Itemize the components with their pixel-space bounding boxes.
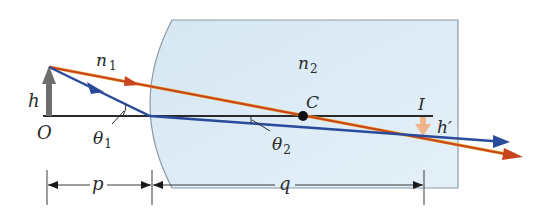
theta1-arc <box>123 104 126 116</box>
label-O: O <box>37 122 52 143</box>
refraction-diagram: n1 n2 h O θ1 θ2 C I h′ p q <box>0 0 551 221</box>
blue-ray-arrowhead-mid <box>87 82 104 94</box>
center-point-C <box>298 111 308 121</box>
medium-n2-block <box>150 20 458 188</box>
red-ray-arrowhead-end <box>502 148 523 160</box>
label-p: p <box>92 173 104 194</box>
red-ray-arrowhead-mid <box>124 76 140 86</box>
blue-ray-arrowhead-end <box>493 135 510 148</box>
label-I: I <box>417 94 425 114</box>
label-h: h <box>28 90 40 111</box>
object-arrow <box>42 66 56 116</box>
theta1-leader <box>112 111 124 124</box>
label-h-prime: h′ <box>437 117 452 137</box>
label-theta1: θ1 <box>93 128 112 151</box>
label-n1: n1 <box>96 50 117 73</box>
label-q: q <box>279 173 291 194</box>
label-C: C <box>306 92 319 112</box>
